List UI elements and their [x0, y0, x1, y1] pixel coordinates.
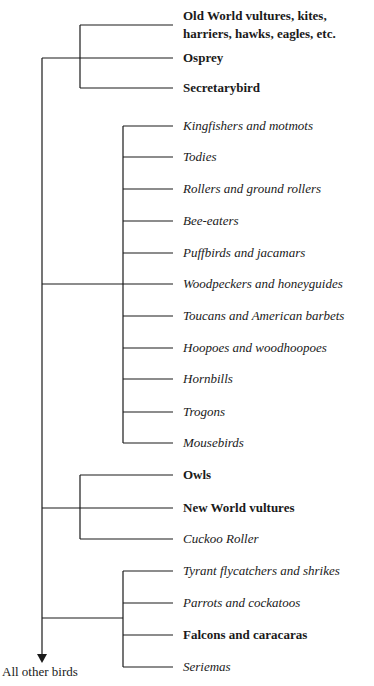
leaf-hoopoes: Hoopoes and woodhoopoes	[183, 341, 327, 355]
leaf-owls: Owls	[183, 468, 211, 482]
leaf-parrots: Parrots and cockatoos	[183, 596, 300, 610]
leaf-old-world-vultures: Old World vultures, kites, harriers, haw…	[183, 7, 373, 43]
leaf-osprey: Osprey	[183, 51, 223, 65]
leaf-puffbirds: Puffbirds and jacamars	[183, 246, 305, 260]
leaf-mousebirds: Mousebirds	[183, 436, 244, 450]
arrow-down-icon	[37, 654, 47, 663]
leaf-bee-eaters: Bee-eaters	[183, 214, 239, 228]
root-label: All other birds	[2, 665, 78, 679]
leaf-tyrant-flycatchers: Tyrant flycatchers and shrikes	[183, 564, 340, 578]
leaf-toucans: Toucans and American barbets	[183, 309, 344, 323]
leaf-new-world-vultures: New World vultures	[183, 501, 294, 515]
leaf-woodpeckers: Woodpeckers and honeyguides	[183, 277, 343, 291]
leaf-secretarybird: Secretarybird	[183, 81, 260, 95]
leaf-rollers: Rollers and ground rollers	[183, 182, 321, 196]
leaf-cuckoo-roller: Cuckoo Roller	[183, 532, 258, 546]
leaf-hornbills: Hornbills	[183, 372, 233, 386]
leaf-trogons: Trogons	[183, 405, 225, 419]
leaf-falcons: Falcons and caracaras	[183, 628, 307, 642]
leaf-todies: Todies	[183, 150, 216, 164]
leaf-kingfishers: Kingfishers and motmots	[183, 119, 313, 133]
leaf-seriemas: Seriemas	[183, 660, 231, 674]
